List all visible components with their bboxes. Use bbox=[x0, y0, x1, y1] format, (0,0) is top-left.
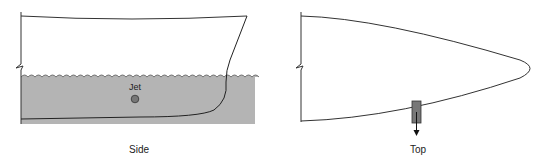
jet-label: Jet bbox=[129, 82, 141, 92]
side-deck-line bbox=[21, 16, 247, 19]
jet-marker bbox=[131, 95, 139, 103]
waterline bbox=[21, 75, 259, 77]
top-stern-break-line bbox=[296, 12, 303, 122]
diagram-canvas bbox=[0, 0, 547, 164]
top-caption: Top bbox=[410, 144, 426, 155]
jet-arrow-head bbox=[414, 130, 420, 136]
side-view bbox=[16, 12, 259, 124]
side-caption: Side bbox=[129, 144, 149, 155]
top-view bbox=[296, 12, 530, 136]
